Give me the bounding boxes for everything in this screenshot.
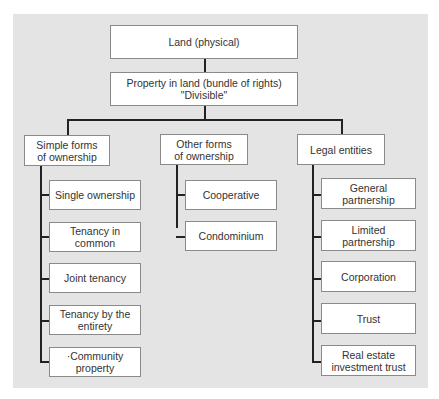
node-cooperative: Cooperative xyxy=(185,180,277,210)
node-simple-forms: Simple forms of ownership xyxy=(24,135,110,166)
node-legal-entities: Legal entities xyxy=(297,134,385,165)
connector-col3-tick xyxy=(312,320,321,322)
node-condominium: Condominium xyxy=(185,221,277,251)
node-trust: Trust xyxy=(321,303,416,334)
connector-root-level2 xyxy=(204,58,206,72)
node-joint-tenancy: Joint tenancy xyxy=(49,263,141,293)
connector-col3-tick xyxy=(312,194,321,196)
connector-col2-tick xyxy=(176,236,185,238)
node-property-in-land: Property in land (bundle of rights) "Div… xyxy=(110,72,298,106)
node-tenancy-in-common: Tenancy in common xyxy=(49,222,141,252)
node-corporation: Corporation xyxy=(321,261,416,292)
connector-col1-tick xyxy=(40,236,49,238)
node-single-ownership: Single ownership xyxy=(49,180,141,210)
node-limited-partnership: Limited partnership xyxy=(321,220,416,251)
node-reit: Real estate investment trust xyxy=(321,345,416,376)
node-tenancy-by-entirety: Tenancy by the entirety xyxy=(49,305,141,335)
connector-horizontal-bus xyxy=(67,119,343,121)
node-land-physical: Land (physical) xyxy=(110,25,298,59)
connector-col2-tick xyxy=(176,194,185,196)
connector-col3-tick xyxy=(312,278,321,280)
connector-col2-spine xyxy=(176,165,178,228)
connector-bus-col1 xyxy=(67,119,69,136)
connector-col1-spine-end xyxy=(40,300,42,363)
node-community-property: ·Community property xyxy=(49,347,141,377)
connector-col3-tick xyxy=(312,361,321,363)
node-other-forms: Other forms of ownership xyxy=(160,134,248,165)
node-general-partnership: General partnership xyxy=(321,178,416,209)
connector-col1-tick xyxy=(40,278,49,280)
connector-col1-tick xyxy=(40,194,49,196)
connector-col3-tick xyxy=(312,236,321,238)
